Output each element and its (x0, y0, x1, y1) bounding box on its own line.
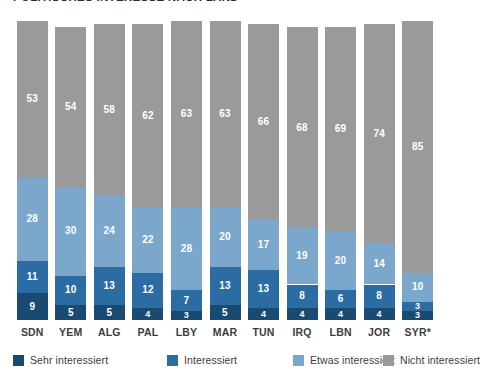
bar-segment[interactable]: 4 (364, 308, 395, 320)
bar-value-label: 13 (258, 284, 270, 294)
bar-segment[interactable]: 14 (364, 243, 395, 284)
bar-segment[interactable]: 53 (17, 21, 48, 178)
bar-column[interactable]: 5132458 (94, 24, 125, 320)
bar-value-label: 4 (145, 310, 150, 319)
bar-segment[interactable]: 28 (17, 178, 48, 261)
bar-column[interactable]: 372863 (171, 24, 202, 320)
bar-value-label: 3 (415, 311, 420, 320)
bar-value-label: 20 (219, 232, 231, 242)
category-label-jor: JOR (360, 326, 399, 338)
bar-value-label: 12 (142, 285, 154, 295)
bar-segment[interactable]: 3 (171, 311, 202, 320)
bar-segment[interactable]: 5 (94, 305, 125, 320)
bar-segment[interactable]: 85 (402, 21, 433, 273)
bar-value-label: 85 (412, 142, 424, 152)
bar-column[interactable]: 4131766 (248, 24, 279, 320)
bar-value-label: 5 (68, 308, 74, 318)
chart-legend: Sehr interessiertInteressiertEtwas inter… (13, 354, 437, 370)
bar-segment[interactable]: 8 (364, 285, 395, 309)
plot-area: 9112853510305451324584122262372863513206… (13, 24, 437, 320)
bar-column[interactable]: 481968 (287, 24, 318, 320)
bar-segment[interactable]: 58 (94, 24, 125, 196)
bar-segment[interactable]: 5 (210, 305, 241, 320)
bar-segment[interactable]: 10 (402, 273, 433, 303)
bar-segment[interactable]: 68 (287, 27, 318, 228)
legend-item[interactable]: Sehr interessiert (13, 354, 108, 366)
bar-column[interactable]: 331085 (402, 24, 433, 320)
category-label-sdn: SDN (13, 326, 52, 338)
bar-value-label: 54 (65, 102, 77, 112)
bar-column[interactable]: 462069 (325, 24, 356, 320)
bar-value-label: 4 (338, 310, 343, 319)
bar-segment[interactable]: 10 (55, 276, 86, 306)
bar-column[interactable]: 5103054 (55, 24, 86, 320)
bar-segment[interactable]: 74 (364, 24, 395, 243)
bar-segment[interactable]: 30 (55, 187, 86, 276)
bar-segment[interactable]: 3 (402, 302, 433, 311)
category-label-lby: LBY (167, 326, 206, 338)
bar-column[interactable]: 4122262 (132, 24, 163, 320)
chart-title: POLITISCHES INTERESSE NACH LAND (13, 0, 239, 3)
bar-value-label: 4 (261, 310, 266, 319)
legend-swatch-icon (293, 355, 304, 366)
bar-segment[interactable]: 13 (210, 267, 241, 305)
bar-segment[interactable]: 17 (248, 219, 279, 269)
bar-value-label: 4 (299, 310, 304, 319)
bar-segment[interactable]: 28 (171, 208, 202, 291)
bar-segment[interactable]: 4 (325, 308, 356, 320)
bar-value-label: 13 (104, 281, 116, 291)
legend-item[interactable]: Interessiert (167, 354, 237, 366)
legend-item[interactable]: Etwas interessiert (293, 354, 395, 366)
bar-segment[interactable]: 9 (17, 293, 48, 320)
bar-segment[interactable]: 13 (248, 270, 279, 308)
bar-value-label: 3 (184, 311, 189, 320)
bar-value-label: 24 (104, 226, 116, 236)
bar-value-label: 74 (373, 129, 385, 139)
bar-value-label: 11 (27, 272, 38, 282)
bar-segment[interactable]: 4 (132, 308, 163, 320)
bar-value-label: 53 (27, 94, 39, 104)
bar-segment[interactable]: 8 (287, 285, 318, 309)
bar-segment[interactable]: 7 (171, 290, 202, 311)
bar-segment[interactable]: 20 (210, 208, 241, 267)
bar-segment[interactable]: 5 (55, 305, 86, 320)
bar-segment[interactable]: 3 (402, 311, 433, 320)
bar-segment[interactable]: 63 (210, 21, 241, 207)
bar-value-label: 19 (296, 251, 308, 261)
bar-segment[interactable]: 12 (132, 273, 163, 309)
bar-segment[interactable]: 62 (132, 24, 163, 208)
bar-segment[interactable]: 20 (325, 231, 356, 290)
bar-value-label: 7 (184, 296, 190, 306)
bar-value-label: 20 (335, 256, 347, 266)
bar-column[interactable]: 9112853 (17, 24, 48, 320)
legend-label: Sehr interessiert (30, 354, 108, 366)
bar-value-label: 8 (376, 291, 382, 301)
bar-segment[interactable]: 19 (287, 228, 318, 284)
category-label-lbn: LBN (321, 326, 360, 338)
bar-segment[interactable]: 69 (325, 27, 356, 231)
bar-segment[interactable]: 11 (17, 261, 48, 294)
bar-value-label: 30 (65, 226, 77, 236)
bar-value-label: 10 (65, 285, 77, 295)
legend-swatch-icon (167, 355, 178, 366)
bar-value-label: 14 (373, 259, 385, 269)
category-label-syr: SYR* (398, 326, 437, 338)
bar-value-label: 8 (299, 291, 305, 301)
bar-segment[interactable]: 22 (132, 208, 163, 273)
bar-segment[interactable]: 24 (94, 196, 125, 267)
bar-segment[interactable]: 4 (287, 308, 318, 320)
bar-value-label: 66 (258, 117, 270, 127)
legend-item[interactable]: Nicht interessiert (383, 354, 480, 366)
bar-segment[interactable]: 6 (325, 290, 356, 308)
bar-column[interactable]: 5132063 (210, 24, 241, 320)
bar-segment[interactable]: 54 (55, 27, 86, 187)
bar-segment[interactable]: 63 (171, 21, 202, 207)
bar-segment[interactable]: 4 (248, 308, 279, 320)
bar-segment[interactable]: 66 (248, 24, 279, 219)
bar-value-label: 62 (142, 111, 154, 121)
bar-value-label: 22 (142, 235, 154, 245)
bar-value-label: 68 (296, 123, 308, 133)
bar-column[interactable]: 481474 (364, 24, 395, 320)
bar-segment[interactable]: 13 (94, 267, 125, 305)
